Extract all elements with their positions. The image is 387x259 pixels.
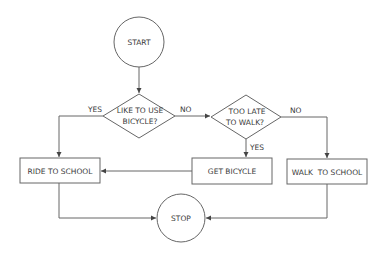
ride-label: RIDE TO SCHOOL	[28, 167, 94, 176]
node-decision-late: TOO LATE TO WALK?	[211, 95, 281, 139]
edge-walk-to-stop	[206, 184, 327, 218]
decision-bicycle-line1: LIKE TO USE	[117, 106, 164, 115]
stop-label: STOP	[171, 214, 191, 223]
edge-bicycle-yes	[59, 116, 103, 157]
edges	[59, 67, 327, 218]
node-get-bicycle: GET BICYCLE	[192, 158, 272, 184]
edge-ride-to-stop	[59, 183, 156, 218]
decision-late-line2: TO WALK?	[225, 118, 264, 127]
decision-late-line1: TOO LATE	[228, 107, 266, 116]
node-decision-bicycle: LIKE TO USE BICYCLE?	[103, 94, 175, 138]
node-walk: WALK TO SCHOOL	[287, 159, 367, 184]
node-ride: RIDE TO SCHOOL	[20, 158, 100, 183]
edge-label-bicycle-yes: YES	[87, 105, 102, 114]
decision-bicycle-diamond	[103, 94, 175, 138]
decision-bicycle-line2: BICYCLE?	[123, 117, 158, 126]
start-label: START	[127, 38, 151, 47]
decision-late-diamond	[211, 95, 281, 139]
walk-label: WALK TO SCHOOL	[292, 168, 363, 177]
edge-label-late-yes: YES	[249, 143, 264, 152]
edge-label-bicycle-no: NO	[180, 105, 192, 114]
node-start: START	[114, 17, 164, 67]
get-bicycle-label: GET BICYCLE	[208, 167, 257, 176]
edge-late-no	[281, 117, 327, 158]
edge-label-late-no: NO	[290, 106, 302, 115]
node-stop: STOP	[157, 194, 205, 242]
flowchart-canvas: START LIKE TO USE BICYCLE? TOO LATE TO W…	[0, 0, 387, 259]
